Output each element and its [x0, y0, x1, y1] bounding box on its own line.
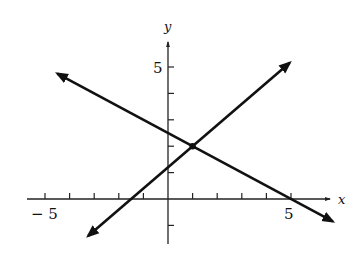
- chart-canvas: y x − 5 5 5: [0, 0, 357, 254]
- y-axis-label: y: [163, 19, 172, 34]
- x-tick-label-5: 5: [284, 205, 294, 223]
- y-axis-ticks: [168, 67, 174, 225]
- y-tick-label-5: 5: [153, 59, 163, 77]
- x-tick-label-neg5: − 5: [31, 205, 58, 223]
- intersection-point: [189, 143, 195, 149]
- y-axis: [168, 42, 174, 244]
- line-series-2: [88, 63, 290, 236]
- x-axis-label: x: [338, 192, 346, 207]
